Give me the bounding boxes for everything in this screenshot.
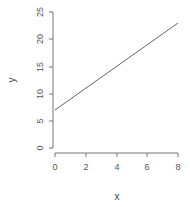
x-axis: 0 2 4 6 8 x xyxy=(52,153,180,202)
y-tick-label: 5 xyxy=(35,118,45,123)
y-tick-label: 20 xyxy=(35,34,45,44)
x-tick-label: 6 xyxy=(144,162,149,172)
x-axis-label: x xyxy=(115,191,120,202)
y-tick-label: 15 xyxy=(35,62,45,72)
y-axis: 0 5 10 15 20 25 y xyxy=(6,7,53,151)
x-tick-label: 4 xyxy=(114,162,119,172)
x-tick-label: 8 xyxy=(175,162,180,172)
data-line xyxy=(55,23,178,110)
y-tick-label: 25 xyxy=(35,7,45,17)
x-tick-label: 2 xyxy=(83,162,88,172)
y-axis-label: y xyxy=(6,78,17,83)
line-chart: 0 5 10 15 20 25 y 0 2 4 6 8 x xyxy=(0,0,190,207)
y-tick-label: 10 xyxy=(35,89,45,99)
x-tick-label: 0 xyxy=(52,162,57,172)
y-tick-label: 0 xyxy=(35,145,45,150)
